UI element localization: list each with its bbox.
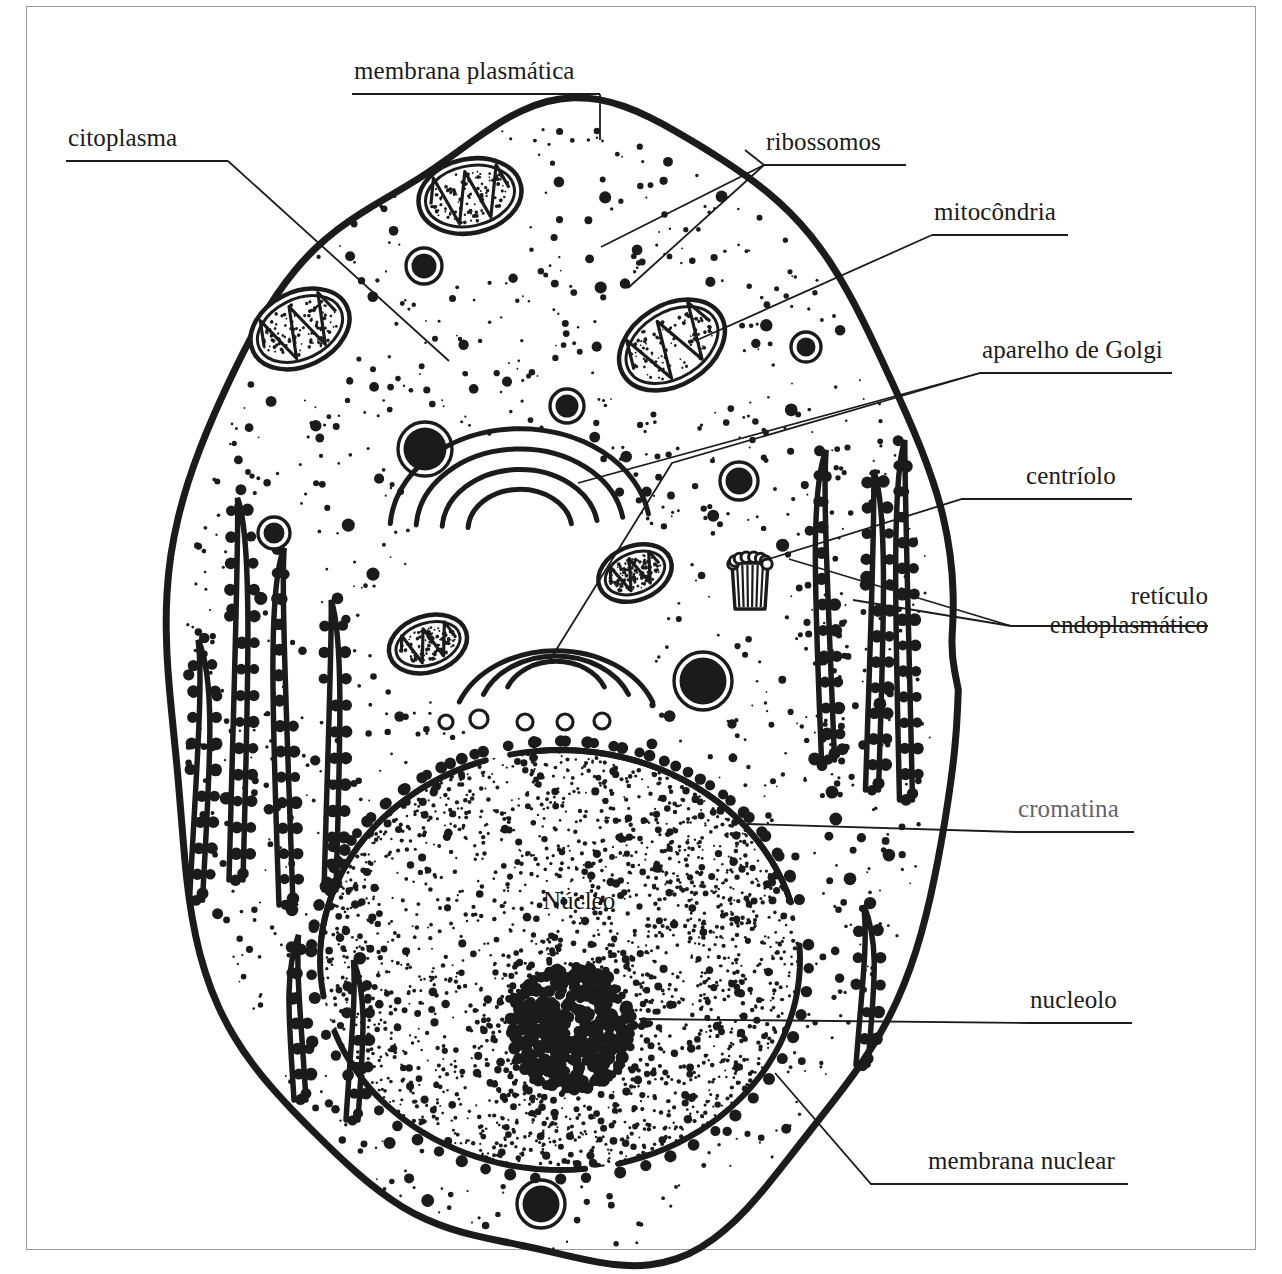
leader-line <box>747 824 1016 832</box>
leader-line <box>775 1073 926 1184</box>
label-nucleolo: nucleolo <box>1030 986 1117 1014</box>
label-citoplasma: citoplasma <box>68 124 177 152</box>
transport-vesicle <box>517 714 533 730</box>
golgi-lower <box>459 651 652 702</box>
transport-vesicle <box>557 714 573 730</box>
transport-vesicle <box>439 715 453 729</box>
nucleus <box>305 735 814 1184</box>
lysosome <box>406 248 442 284</box>
mitochondrion <box>237 273 363 385</box>
label-mitocondria: mitocôndria <box>934 198 1056 226</box>
label-aparelho-de-golgi: aparelho de Golgi <box>982 336 1163 364</box>
label-membrana-nuclear: membrana nuclear <box>928 1147 1115 1175</box>
transport-vesicle <box>594 713 610 729</box>
transport-vesicles <box>439 710 610 730</box>
leader-line <box>639 1019 1028 1023</box>
lysosome <box>791 332 821 362</box>
mitochondrion <box>381 605 474 683</box>
label-cromatina: cromatina <box>1018 795 1119 823</box>
label-membrana-plasmatica: membrana plasmática <box>354 57 575 85</box>
label-nucleo: Núcleo <box>543 887 615 915</box>
lysosome <box>720 462 758 500</box>
leader-line <box>745 150 764 165</box>
label-reticulo-endoplasmatico: retículo endoplasmático <box>1050 582 1208 639</box>
lysosome <box>674 652 732 710</box>
nuclear-envelope-segment <box>510 750 791 902</box>
label-ribossomos: ribossomos <box>766 128 881 156</box>
mitochondrion <box>411 149 528 243</box>
lysosome <box>517 1180 565 1228</box>
transport-vesicle <box>470 710 488 728</box>
mitochondria-group <box>237 149 741 683</box>
figure-page: membrana plasmáticacitoplasmaribossomosm… <box>0 0 1282 1274</box>
lysosome <box>258 517 290 549</box>
leader-line <box>601 165 764 247</box>
mitochondrion <box>602 281 741 409</box>
leader-line <box>695 235 932 341</box>
nucleolus <box>473 932 667 1120</box>
lysosome <box>550 389 584 423</box>
label-centriolo: centríolo <box>1026 462 1116 490</box>
